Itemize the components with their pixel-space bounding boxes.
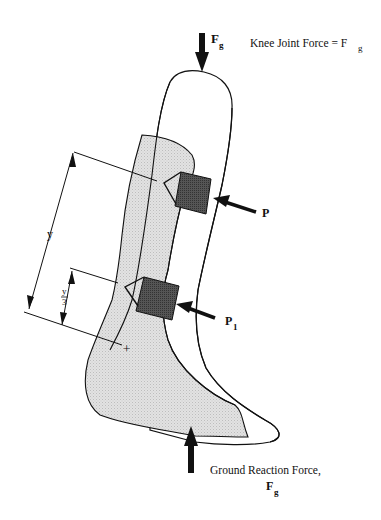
svg-text:y: y bbox=[62, 286, 67, 296]
top-force-arrow-icon bbox=[195, 33, 209, 72]
p1-label: P bbox=[225, 314, 232, 328]
p1-sub: 1 bbox=[233, 322, 238, 332]
ground-force-label: Ground Reaction Force, bbox=[210, 464, 321, 477]
center-mark: + bbox=[123, 341, 130, 356]
knee-joint-sub: g bbox=[358, 43, 363, 53]
dimension-y-label: y bbox=[47, 227, 53, 241]
knee-joint-label: Knee Joint Force = F bbox=[250, 37, 347, 49]
ground-force-sub: g bbox=[274, 487, 279, 497]
top-force-sub: g bbox=[219, 40, 224, 50]
orthosis-diagram: + F g Knee Joint Force = F g P P 1 y y 3… bbox=[0, 0, 381, 520]
p-label: P bbox=[262, 206, 269, 220]
p-arrow-icon bbox=[213, 195, 256, 212]
ground-force-symbol: F bbox=[266, 479, 273, 493]
top-force-symbol: F bbox=[211, 31, 219, 46]
svg-text:3: 3 bbox=[62, 297, 67, 307]
